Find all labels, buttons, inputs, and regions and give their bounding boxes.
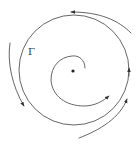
inner-spiral-trajectory: [51, 56, 109, 106]
limit-cycle-diagram: Γ: [0, 0, 138, 146]
outer-trajectory-bottom-right: [79, 99, 127, 138]
gamma-label: Γ: [28, 46, 35, 57]
equilibrium-point: [71, 69, 74, 72]
